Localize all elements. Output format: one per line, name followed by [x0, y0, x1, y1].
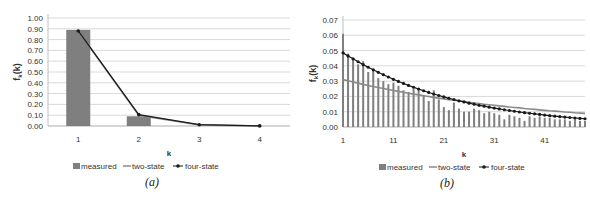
bar-measured — [559, 119, 561, 127]
marker-four-state — [457, 99, 460, 102]
y-tick-label: 0.80 — [27, 36, 43, 45]
bar-measured — [352, 58, 354, 127]
bar-measured — [564, 119, 566, 127]
marker-four-state — [367, 66, 370, 69]
marker-four-state — [498, 107, 501, 110]
y-tick-label: 0.60 — [27, 57, 43, 66]
bar-measured — [408, 92, 410, 127]
y-tick-label: 0.90 — [27, 25, 43, 34]
bar-measured — [463, 112, 465, 127]
marker-four-state — [583, 117, 586, 120]
y-tick-label: 0.10 — [27, 111, 43, 120]
bar-measured — [529, 116, 531, 127]
line-four-state — [343, 53, 585, 119]
marker-four-state — [387, 75, 390, 78]
y-tick-label: 0.00 — [322, 123, 338, 132]
bar-measured — [483, 113, 485, 127]
marker-four-state — [478, 104, 481, 107]
bar-measured — [387, 84, 389, 127]
legend-four-state-label: four-state — [185, 162, 219, 171]
bar-measured — [357, 64, 359, 127]
marker-four-state — [397, 80, 400, 83]
y-tick-label: 0.05 — [322, 47, 338, 56]
bar-measured — [574, 119, 576, 127]
panel-caption: (a) — [145, 175, 159, 189]
x-tick-label: 2 — [137, 135, 142, 144]
bar-measured — [367, 72, 369, 127]
bar-measured — [458, 109, 460, 127]
marker-four-state — [493, 106, 496, 109]
y-tick-label: 0.01 — [322, 108, 338, 117]
y-tick-label: 0.07 — [322, 16, 338, 25]
bar-measured — [534, 118, 536, 127]
bar-measured — [443, 107, 445, 127]
bar-measured — [453, 103, 455, 127]
marker-four-state — [503, 108, 506, 111]
marker-four-state — [197, 123, 201, 127]
marker-four-state — [407, 84, 410, 87]
bar-measured — [473, 109, 475, 127]
marker-four-state — [563, 115, 566, 118]
bar-measured — [127, 116, 151, 126]
bar-measured — [498, 115, 500, 127]
y-tick-label: 0.50 — [27, 68, 43, 77]
bar-measured — [372, 69, 374, 127]
bar-measured — [549, 118, 551, 127]
bar-measured — [438, 99, 440, 127]
marker-four-state — [382, 73, 385, 76]
marker-four-state — [462, 100, 465, 103]
marker-four-state — [528, 112, 531, 115]
y-tick-label: 0.04 — [322, 62, 338, 71]
marker-four-state — [553, 115, 556, 118]
legend-two-state-label: two-state — [438, 163, 471, 172]
bar-measured — [569, 121, 571, 127]
marker-four-state — [488, 106, 491, 109]
y-tick-label: 0.06 — [322, 31, 338, 40]
marker-four-state — [427, 91, 430, 94]
marker-four-state — [508, 109, 511, 112]
marker-four-state — [467, 102, 470, 105]
marker-four-state — [372, 68, 375, 71]
legend-four-state-marker — [482, 165, 486, 169]
marker-four-state — [341, 51, 344, 54]
marker-four-state — [346, 54, 349, 57]
bar-measured — [544, 118, 546, 127]
marker-four-state — [377, 71, 380, 74]
x-tick-label: 41 — [540, 136, 549, 145]
x-axis-label: k — [167, 149, 172, 158]
marker-four-state — [422, 89, 425, 92]
legend-measured-label: measured — [81, 162, 117, 171]
legend-measured-swatch — [379, 164, 386, 170]
marker-four-state — [518, 110, 521, 113]
bar-measured — [508, 115, 510, 127]
bar-measured — [503, 119, 505, 127]
marker-four-state — [357, 60, 360, 63]
y-tick-label: 0.70 — [27, 46, 43, 55]
figure: 0.000.100.200.300.400.500.600.700.800.90… — [0, 0, 590, 197]
legend-measured-swatch — [73, 163, 80, 169]
marker-four-state — [412, 86, 415, 89]
marker-four-state — [447, 97, 450, 100]
marker-four-state — [137, 113, 141, 117]
bar-measured — [478, 110, 480, 127]
marker-four-state — [513, 110, 516, 113]
bar-measured — [579, 121, 581, 127]
x-tick-label: 21 — [439, 136, 448, 145]
marker-four-state — [432, 92, 435, 95]
x-tick-label: 4 — [258, 135, 263, 144]
bar-measured — [362, 61, 364, 127]
legend-four-state-marker — [176, 164, 180, 168]
legend-two-state-label: two-state — [132, 162, 165, 171]
bar-measured — [66, 30, 90, 126]
bar-measured — [468, 112, 470, 127]
y-tick-label: 0.40 — [27, 79, 43, 88]
marker-four-state — [76, 29, 80, 33]
bar-measured — [584, 121, 586, 127]
bar-measured — [539, 116, 541, 127]
y-tick-label: 0.00 — [27, 122, 43, 131]
x-axis-label: k — [462, 150, 467, 159]
y-tick-label: 0.03 — [322, 77, 338, 86]
marker-four-state — [523, 111, 526, 114]
marker-four-state — [437, 94, 440, 97]
bar-measured — [423, 95, 425, 127]
